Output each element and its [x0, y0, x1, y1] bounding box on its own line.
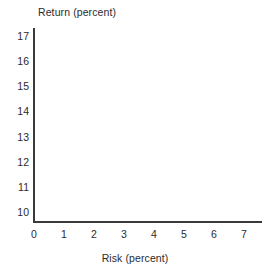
x-tick-label: 4 — [144, 228, 164, 240]
y-tick-label: 14 — [3, 106, 29, 117]
y-tick-label: 17 — [3, 31, 29, 42]
y-tick-label: 12 — [3, 157, 29, 168]
x-tick-label: 1 — [54, 228, 74, 240]
x-axis-title: Risk (percent) — [0, 252, 270, 264]
y-axis-title: Return (percent) — [38, 6, 116, 18]
y-tick-label: 11 — [3, 182, 29, 193]
y-tick-label: 15 — [3, 81, 29, 92]
y-tick-label: 16 — [3, 56, 29, 67]
x-axis-line — [33, 221, 262, 223]
x-tick-label: 2 — [84, 228, 104, 240]
y-axis-line — [33, 28, 35, 223]
y-tick-label: 10 — [3, 207, 29, 218]
chart-figure: Return (percent) 17 16 15 14 13 12 11 10… — [0, 0, 270, 277]
x-tick-label: 3 — [114, 228, 134, 240]
y-tick-label: 13 — [3, 132, 29, 143]
x-tick-label: 7 — [234, 228, 254, 240]
x-tick-label: 6 — [204, 228, 224, 240]
x-tick-label: 0 — [24, 228, 44, 240]
plot-area — [35, 28, 262, 221]
x-tick-label: 5 — [174, 228, 194, 240]
